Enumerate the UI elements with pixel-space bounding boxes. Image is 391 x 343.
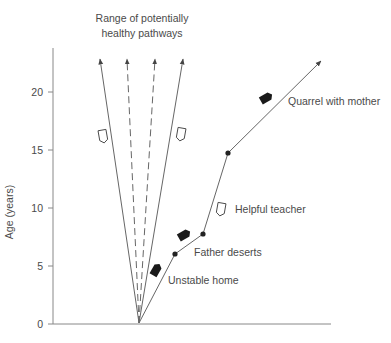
- tick-label-0: 0: [37, 318, 43, 330]
- pathways-diagram: Range of potentially healthy pathways 0 …: [0, 0, 391, 343]
- diagram-title-line2: healthy pathways: [101, 27, 182, 39]
- risk-marker-icon: [259, 91, 274, 104]
- tick-label-10: 10: [31, 202, 43, 214]
- protective-marker-icon: [98, 129, 108, 143]
- y-axis-ticks: 0 5 10 15 20: [31, 86, 53, 330]
- tick-label-20: 20: [31, 86, 43, 98]
- event-label-helpful-teacher: Helpful teacher: [235, 203, 306, 215]
- tick-label-5: 5: [37, 260, 43, 272]
- protective-marker-icon: [176, 127, 186, 141]
- risk-marker-icon: [177, 228, 192, 241]
- event-label-quarrel-with-mother: Quarrel with mother: [288, 95, 381, 107]
- diagram-title-line1: Range of potentially: [96, 12, 190, 24]
- pathway-inner-right: [139, 59, 155, 323]
- protective-marker-icon: [216, 202, 226, 216]
- event-label-unstable-home: Unstable home: [168, 274, 239, 286]
- trajectory-point-father-deserts: [200, 231, 205, 236]
- risk-marker-icon: [150, 262, 163, 277]
- tick-label-15: 15: [31, 144, 43, 156]
- event-label-father-deserts: Father deserts: [194, 246, 262, 258]
- trajectory-point-unstable-home: [172, 251, 177, 256]
- trajectory-point-helpful-teacher: [225, 150, 230, 155]
- y-axis-label: Age (years): [3, 185, 15, 239]
